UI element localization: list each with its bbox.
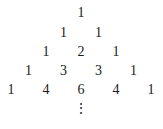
triangle-entry: 4 bbox=[113, 83, 120, 97]
triangle-entry: 3 bbox=[95, 64, 102, 78]
triangle-entry: 1 bbox=[60, 26, 67, 40]
triangle-entry: 1 bbox=[25, 64, 32, 78]
continuation-ellipsis: ⋮ bbox=[74, 106, 88, 111]
triangle-entry: 4 bbox=[43, 83, 50, 97]
triangle-entry: 2 bbox=[78, 45, 85, 59]
triangle-entry: 1 bbox=[148, 83, 155, 97]
triangle-entry: 1 bbox=[78, 6, 85, 20]
triangle-entry: 1 bbox=[8, 83, 15, 97]
triangle-entry: 1 bbox=[113, 45, 120, 59]
triangle-entry: 1 bbox=[130, 64, 137, 78]
triangle-entry: 3 bbox=[60, 64, 67, 78]
triangle-entry: 1 bbox=[43, 45, 50, 59]
triangle-entry: 1 bbox=[95, 26, 102, 40]
triangle-entry: 6 bbox=[78, 83, 85, 97]
